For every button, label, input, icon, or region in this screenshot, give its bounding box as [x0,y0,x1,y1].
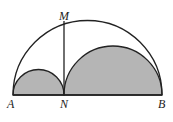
label-M: M [58,9,70,23]
label-A: A [6,97,15,111]
label-B: B [158,97,166,111]
small-semicircle-shaded [13,70,64,96]
right-semicircle-shaded [64,46,162,95]
label-N: N [59,97,69,111]
semicircle-diagram: A N B M [0,0,173,122]
